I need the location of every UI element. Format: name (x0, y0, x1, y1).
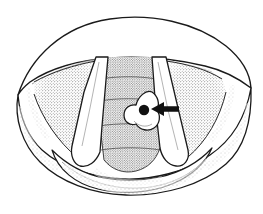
laryngoscopic-illustration (0, 0, 263, 214)
figure-root: Laryngoscopic view of the larynx (0, 0, 263, 214)
lesion-marker-dot (139, 105, 149, 115)
